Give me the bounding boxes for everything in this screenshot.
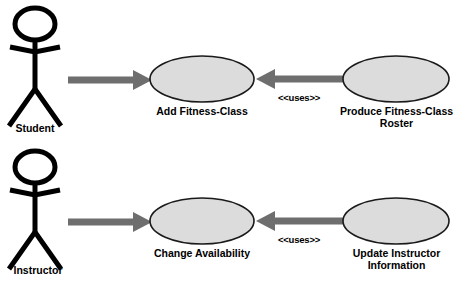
arrow-head-icon	[133, 212, 152, 232]
actor-head-icon	[15, 8, 55, 40]
association-student-to-add-fitness-class[interactable]	[68, 70, 152, 90]
use-case-label-produce-fitness-class-roster: Produce Fitness-Class Roster	[335, 106, 458, 130]
association-roster-uses-add-fitness-class[interactable]	[256, 69, 345, 89]
use-case-produce-fitness-class-roster[interactable]	[343, 56, 449, 102]
stereotype-label-uses-top: <<uses>>	[254, 93, 344, 104]
actor-instructor[interactable]	[9, 151, 61, 269]
actor-head-icon	[15, 151, 55, 183]
use-case-label-change-availability: Change Availability	[142, 248, 262, 260]
arrow-head-icon	[256, 69, 275, 89]
actor-label-student: Student	[0, 123, 70, 135]
use-case-add-fitness-class[interactable]	[150, 56, 254, 102]
actor-label-instructor: Instructor	[0, 265, 76, 277]
arrow-head-icon	[133, 70, 152, 90]
actor-student[interactable]	[9, 8, 61, 126]
use-case-update-instructor-information[interactable]	[343, 198, 449, 244]
use-case-label-update-instructor-information: Update Instructor Information	[335, 248, 458, 272]
stereotype-label-uses-bottom: <<uses>>	[254, 235, 344, 246]
use-case-change-availability[interactable]	[150, 198, 254, 244]
arrow-head-icon	[256, 211, 275, 231]
association-update-uses-change-availability[interactable]	[256, 211, 345, 231]
association-instructor-to-change-availability[interactable]	[68, 212, 152, 232]
actor-legs-icon	[9, 89, 61, 126]
use-case-diagram-canvas	[0, 0, 459, 284]
use-case-label-add-fitness-class: Add Fitness-Class	[142, 106, 262, 118]
